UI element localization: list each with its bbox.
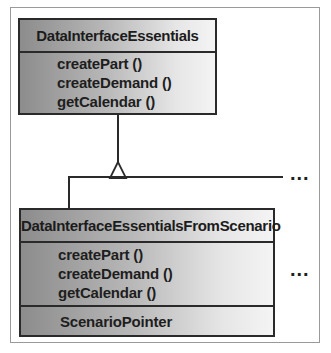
child-connector-line	[68, 176, 70, 209]
parent-class-operations: createPart () createDemand () getCalenda…	[20, 53, 215, 113]
operation-create-demand: createDemand ()	[57, 73, 215, 92]
more-members-ellipsis: ...	[290, 264, 310, 274]
operation-get-calendar: getCalendar ()	[58, 283, 273, 302]
child-class-attributes: ScenarioPointer	[21, 307, 273, 335]
parent-class-name: DataInterfaceEssentials	[20, 27, 215, 44]
attribute-scenario-pointer: ScenarioPointer	[60, 312, 273, 331]
child-class-box: DataInterfaceEssentialsFromScenario crea…	[19, 208, 275, 337]
operation-create-part: createPart ()	[57, 54, 215, 73]
child-class-header: DataInterfaceEssentialsFromScenario	[21, 210, 273, 243]
parent-class-box: DataInterfaceEssentials createPart () cr…	[18, 18, 217, 115]
operation-create-demand: createDemand ()	[58, 264, 273, 283]
more-subclasses-ellipsis: ...	[290, 168, 310, 178]
generalization-horizontal-line	[68, 176, 283, 178]
child-class-operations: createPart () createDemand () getCalenda…	[21, 243, 273, 307]
parent-class-header: DataInterfaceEssentials	[20, 20, 215, 53]
child-class-name: DataInterfaceEssentialsFromScenario	[21, 217, 273, 234]
operation-create-part: createPart ()	[58, 245, 273, 264]
generalization-vertical-line	[117, 115, 119, 164]
operation-get-calendar: getCalendar ()	[57, 92, 215, 111]
